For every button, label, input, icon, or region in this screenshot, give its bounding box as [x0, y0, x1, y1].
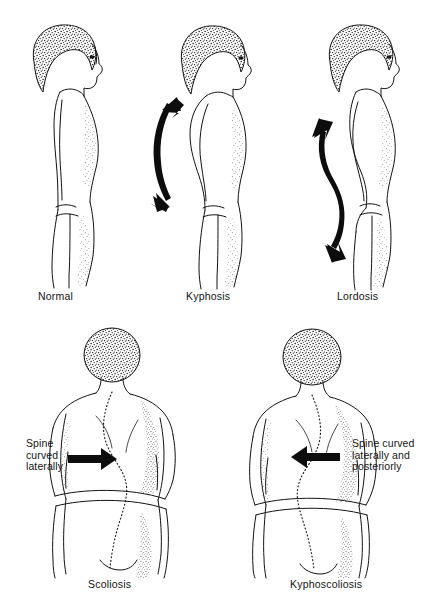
caption-scoliosis: Scoliosis [88, 578, 131, 590]
kyphoscoliosis-neck-shoulders [253, 381, 374, 440]
normal-eye [89, 55, 94, 58]
kyphoscoliosis-arrow-left [291, 446, 340, 468]
annotation-kyphoscoliosis: Spine curved laterally and posteriorly [352, 438, 428, 473]
lordosis-hair [329, 25, 392, 92]
kyphosis-lower-body [199, 202, 242, 289]
annotation-kyphoscoliosis-line-1: Spine curved [352, 438, 428, 450]
normal-torso [54, 89, 98, 210]
kyphoscoliosis-lower-body [253, 498, 370, 578]
annotation-scoliosis-line-1: Spine [26, 438, 84, 450]
lordosis-lower-body [354, 202, 391, 290]
scoliosis-neck-shoulders [53, 378, 173, 435]
annotation-kyphoscoliosis-line-3: posteriorly [352, 461, 428, 473]
kyphosis-curve-arrow [150, 97, 184, 212]
lordosis-eye [386, 55, 391, 58]
annotation-scoliosis: Spine curved laterally [26, 438, 84, 473]
panel-lordosis [312, 25, 399, 290]
caption-normal: Normal [38, 290, 73, 302]
kyphosis-torso [190, 92, 246, 210]
spinal-deformities-figure: Normal Kyphosis Lordosis Scoliosis Kypho… [0, 0, 428, 594]
normal-lower-body [52, 202, 94, 288]
kyphoscoliosis-hair [283, 329, 341, 385]
scoliosis-spine-dotted [103, 392, 126, 568]
annotation-scoliosis-line-3: laterally [26, 461, 84, 473]
panel-kyphosis [150, 26, 251, 289]
panel-normal [33, 25, 102, 288]
kyphosis-hair [181, 26, 244, 94]
scoliosis-hair [84, 328, 140, 382]
kyphoscoliosis-spine-dotted [297, 395, 320, 570]
normal-hair [33, 25, 95, 92]
lordosis-curve-arrow [312, 118, 346, 263]
caption-kyphoscoliosis: Kyphoscoliosis [290, 578, 362, 590]
kyphosis-eye [238, 56, 243, 59]
caption-lordosis: Lordosis [337, 290, 378, 302]
caption-kyphosis: Kyphosis [186, 290, 230, 302]
